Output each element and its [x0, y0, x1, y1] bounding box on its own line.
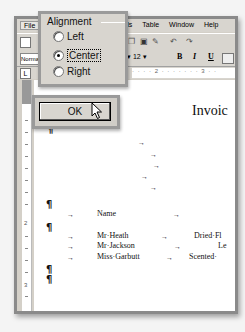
ruler-tick [25, 204, 28, 205]
customer-name: Miss·Garbutt [97, 252, 140, 261]
tab-arrow: → [138, 139, 145, 147]
tab-arrow: → [166, 254, 173, 262]
ruler-margin-shade [22, 80, 31, 104]
radio-center[interactable]: Center [53, 49, 101, 62]
alignment-dialog-callout: Alignment Left Center Right [38, 11, 128, 87]
menu-table[interactable]: Table [139, 21, 162, 28]
radio-label-left[interactable]: Left [67, 31, 84, 42]
radio-button-left[interactable] [53, 31, 64, 42]
ruler-tick [25, 144, 28, 145]
ruler-tick [25, 236, 28, 237]
tab-arrow: → [174, 243, 181, 251]
horizontal-ruler[interactable]: · · · · 2 · · · · · · · 3 · · [132, 68, 235, 78]
vertical-ruler[interactable]: 2 3 [22, 80, 32, 311]
document-title: Invoic [192, 103, 228, 119]
bold-button[interactable]: B [177, 52, 182, 61]
tab-arrow: → [153, 162, 160, 170]
ruler-tick [25, 180, 28, 181]
ruler-number: 3 [24, 282, 27, 288]
mouse-pointer-icon [91, 102, 103, 120]
item-name: Dried·Fl [194, 231, 222, 240]
tab-arrow: → [67, 233, 74, 241]
tab-selector-button[interactable]: L [20, 68, 31, 79]
font-size-select[interactable]: ▾ 12 ▾ [127, 53, 147, 61]
copy-icon[interactable]: ❐ [127, 37, 136, 46]
ok-button-callout: OK [32, 95, 120, 129]
tab-arrow: → [67, 254, 74, 262]
item-name: Scented· [189, 252, 217, 261]
tab-arrow: → [141, 173, 148, 181]
menu-help[interactable]: Help [201, 21, 221, 28]
radio-right[interactable]: Right [53, 66, 90, 77]
radio-label-center[interactable]: Center [67, 49, 101, 62]
radio-label-right[interactable]: Right [67, 66, 90, 77]
customer-name: Mr·Heath [97, 231, 129, 240]
pilcrow: ¶ [46, 222, 52, 233]
pilcrow: ¶ [46, 274, 52, 285]
ruler-tick [25, 260, 28, 261]
ruler-tick [25, 132, 28, 133]
alignment-legend: Alignment [47, 16, 91, 27]
format-painter-icon[interactable]: ✎ [151, 37, 160, 46]
tab-arrow: → [161, 233, 168, 241]
ruler-tick [25, 296, 28, 297]
menu-right-group: Tools Table Window Help [113, 21, 221, 28]
ruler-tick [25, 192, 28, 193]
tab-arrow: → [150, 151, 157, 159]
menu-window[interactable]: Window [166, 21, 197, 28]
tab-arrow: → [150, 184, 157, 192]
new-document-icon[interactable] [20, 37, 31, 48]
groupbox-line [101, 22, 125, 23]
tab-arrow: → [67, 211, 74, 219]
customer-name: Mr·Jackson [97, 241, 135, 250]
font-size-value: 12 [133, 53, 141, 60]
ruler-tick [25, 272, 28, 273]
undo-icon[interactable]: ↶ [169, 37, 178, 46]
radio-left[interactable]: Left [53, 31, 84, 42]
ruler-number: 2 [24, 220, 27, 226]
pilcrow: ¶ [46, 199, 52, 210]
paste-icon[interactable]: ▣ [139, 37, 148, 46]
ruler-tick [25, 248, 28, 249]
ruler-tick [25, 120, 28, 121]
radio-button-center[interactable] [53, 50, 64, 61]
ruler-tick [25, 156, 28, 157]
menu-file[interactable]: File [20, 21, 39, 30]
redo-icon[interactable]: ↷ [185, 37, 194, 46]
tab-arrow: → [67, 243, 74, 251]
align-left-icon[interactable] [222, 53, 234, 64]
column-header-name: Name [97, 209, 116, 218]
underline-button[interactable]: U [208, 52, 214, 61]
ruler-tick [25, 168, 28, 169]
radio-button-right[interactable] [53, 66, 64, 77]
tab-arrow: → [173, 211, 180, 219]
item-name: Le [218, 241, 226, 250]
italic-button[interactable]: I [193, 52, 196, 61]
